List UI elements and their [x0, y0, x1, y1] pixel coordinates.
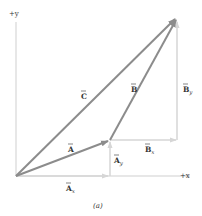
svg-text:C: C: [81, 92, 87, 101]
x-axis-label: +x: [180, 172, 190, 180]
label-a: A: [67, 144, 74, 154]
label-ay: Ay: [113, 155, 124, 167]
figure-caption: (a): [93, 202, 103, 210]
svg-text:A: A: [67, 145, 74, 154]
label-bx: Bx: [145, 144, 155, 155]
y-axis-label: +y: [9, 10, 19, 18]
svg-text:Bx: Bx: [145, 145, 155, 155]
label-b: B: [131, 84, 137, 94]
vector-a: [16, 141, 108, 176]
label-c: C: [81, 91, 87, 101]
label-ax: Ax: [65, 183, 76, 194]
svg-text:Ax: Ax: [65, 184, 76, 194]
svg-text:By: By: [183, 85, 193, 96]
vector-addition-diagram: +y +x C B A By Bx Ay Ax (a): [0, 0, 202, 216]
svg-text:B: B: [131, 85, 137, 94]
svg-text:Ay: Ay: [113, 156, 124, 167]
vector-b: [110, 20, 176, 140]
label-by: By: [183, 84, 193, 96]
